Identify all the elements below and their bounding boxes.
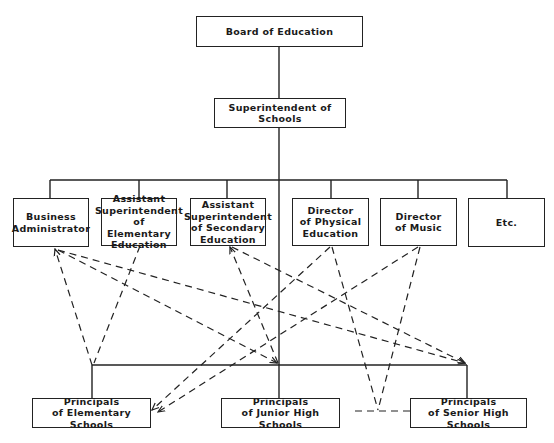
node-superintendent: Superintendent of Schools <box>214 98 346 128</box>
node-label: Etc. <box>496 217 517 229</box>
node-label-line: Education <box>111 239 167 251</box>
node-label-line: Administrator <box>12 223 90 235</box>
node-label-line: of Junior High Schools <box>222 407 339 430</box>
node-label: Superintendent of Schools <box>215 102 345 125</box>
node-label-line: Director <box>395 211 441 223</box>
node-director-music: Director of Music <box>380 198 457 246</box>
node-label-line: Director <box>307 205 353 217</box>
node-label-line: Superintendent <box>184 211 272 223</box>
node-principals-senior-high: Principals of Senior High Schools <box>410 398 527 428</box>
node-label-line: of Secondary <box>191 222 265 234</box>
node-label-line: Education <box>303 228 359 240</box>
node-principals-elementary: Principals of Elementary Schools <box>32 398 151 428</box>
node-label-line: Assistant <box>202 199 255 211</box>
node-principals-junior-high: Principals of Junior High Schools <box>221 398 340 428</box>
node-etc: Etc. <box>468 198 545 247</box>
node-label-line: Assistant <box>113 193 166 205</box>
node-label-line: Education <box>200 234 256 246</box>
node-label-line: of Physical <box>300 216 361 228</box>
node-label-line: Principals <box>441 396 497 408</box>
node-label-line: of Elementary <box>102 216 176 239</box>
node-business-administrator: Business Administrator <box>13 198 89 247</box>
node-asst-superintendent-secondary: Assistant Superintendent of Secondary Ed… <box>190 198 266 246</box>
node-label-line: Business <box>26 211 76 223</box>
node-asst-superintendent-elementary: Assistant Superintendent of Elementary E… <box>101 198 177 246</box>
node-label-line: Principals <box>253 396 309 408</box>
node-label-line: of Senior High Schools <box>411 407 526 430</box>
node-label: Board of Education <box>226 26 334 38</box>
node-label-line: Superintendent <box>95 205 183 217</box>
node-label-line: Principals <box>64 396 120 408</box>
node-label-line: of Music <box>395 222 442 234</box>
node-director-physical-education: Director of Physical Education <box>292 198 369 246</box>
node-board-of-education: Board of Education <box>196 16 363 47</box>
dashed-lines <box>55 246 465 412</box>
node-label-line: of Elementary Schools <box>33 407 150 430</box>
